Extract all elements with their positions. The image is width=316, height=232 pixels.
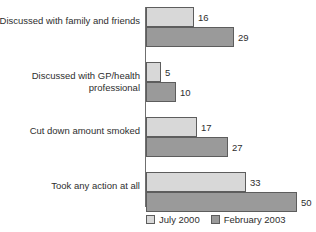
- bar-0: [146, 117, 197, 137]
- bar-value-label: 17: [201, 122, 212, 133]
- bar-row: 27: [146, 137, 316, 157]
- bar-1: [146, 192, 297, 212]
- bar-value-label: 16: [198, 12, 209, 23]
- dark-gray-swatch-icon: [211, 215, 220, 224]
- light-gray-swatch-icon: [146, 215, 155, 224]
- bar-0: [146, 62, 161, 82]
- bar-0: [146, 7, 194, 27]
- bar-row: 10: [146, 82, 316, 102]
- category-label: Took any action at all: [0, 180, 140, 192]
- plot-area: Discussed with family and friends1629Dis…: [0, 0, 316, 209]
- bar-row: 16: [146, 7, 316, 27]
- category-label: Discussed with family and friends: [0, 15, 140, 27]
- legend-label: July 2000: [159, 214, 200, 225]
- bar-value-label: 29: [238, 32, 249, 43]
- bar-row: 33: [146, 172, 316, 192]
- bar-group: Took any action at all3350: [0, 172, 316, 212]
- category-label: Discussed with GP/health professional: [0, 70, 140, 94]
- bar-group: Cut down amount smoked1727: [0, 117, 316, 157]
- bar-value-label: 5: [165, 67, 170, 78]
- bar-group: Discussed with family and friends1629: [0, 7, 316, 47]
- bar-group: Discussed with GP/health professional510: [0, 62, 316, 102]
- category-label: Cut down amount smoked: [0, 125, 140, 137]
- legend-item-february-2003: February 2003: [211, 214, 286, 225]
- legend-label: February 2003: [224, 214, 286, 225]
- bar-row: 17: [146, 117, 316, 137]
- bar-1: [146, 137, 228, 157]
- bar-value-label: 50: [301, 197, 312, 208]
- bar-1: [146, 82, 176, 102]
- bar-value-label: 10: [180, 87, 191, 98]
- bar-1: [146, 27, 234, 47]
- legend-item-july-2000: July 2000: [146, 214, 200, 225]
- bar-row: 5: [146, 62, 316, 82]
- bar-chart: Discussed with family and friends1629Dis…: [0, 0, 316, 232]
- bar-value-label: 27: [232, 142, 243, 153]
- bar-0: [146, 172, 246, 192]
- bar-value-label: 33: [250, 177, 261, 188]
- bar-row: 29: [146, 27, 316, 47]
- chart-legend: July 2000 February 2003: [146, 212, 316, 226]
- bar-row: 50: [146, 192, 316, 212]
